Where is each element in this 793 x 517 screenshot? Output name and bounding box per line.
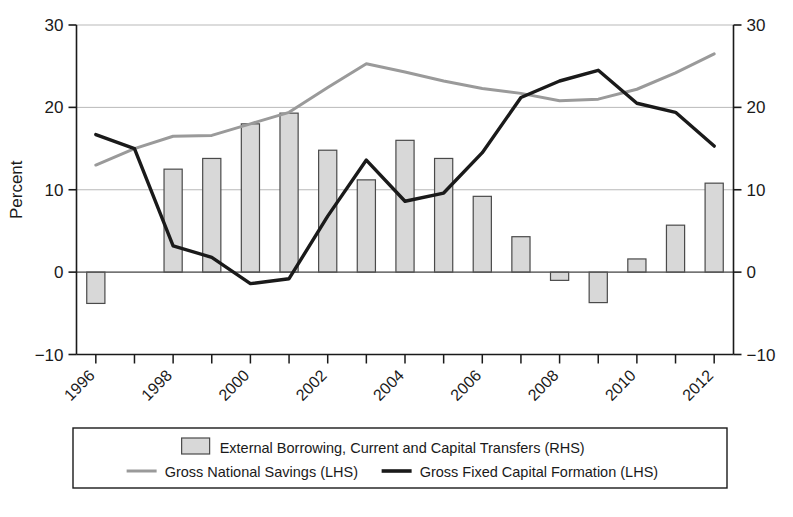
bar-2005[interactable]: [435, 158, 453, 272]
bar-1998[interactable]: [164, 169, 182, 272]
right-tick-label-20: 20: [747, 98, 766, 117]
right-tick-label-10: 10: [747, 181, 766, 200]
legend-marker-bars: [182, 438, 210, 454]
right-axis: −100102030: [734, 16, 776, 365]
xtick-label-2004: 2004: [370, 367, 407, 404]
right-tick-label-30: 30: [747, 16, 766, 35]
xtick-label-2012: 2012: [679, 367, 716, 404]
bar-2010[interactable]: [628, 259, 646, 272]
bottom-axis: 199619982000200220042006200820102012: [61, 355, 734, 404]
chart-figure: −100102030−10010203019961998200020022004…: [0, 0, 793, 517]
legend-label-gns: Gross National Savings (LHS): [165, 464, 358, 480]
left-tick-label-30: 30: [45, 16, 64, 35]
left-tick-label-0: 0: [54, 263, 63, 282]
xtick-label-1998: 1998: [138, 367, 175, 404]
bar-1996[interactable]: [87, 272, 105, 303]
xtick-label-2008: 2008: [525, 367, 562, 404]
bar-2002[interactable]: [319, 150, 337, 272]
bar-2006[interactable]: [473, 196, 491, 272]
right-tick-label--10: −10: [747, 346, 776, 365]
left-tick-label-20: 20: [45, 98, 64, 117]
bar-2009[interactable]: [589, 272, 607, 302]
left-tick-label-10: 10: [45, 181, 64, 200]
xtick-label-2006: 2006: [447, 367, 484, 404]
bar-2011[interactable]: [666, 225, 684, 272]
left-axis: −100102030: [35, 16, 77, 365]
bar-2000[interactable]: [241, 124, 259, 272]
bar-2007[interactable]: [512, 237, 530, 272]
xtick-label-2002: 2002: [293, 367, 330, 404]
y-axis-label: Percent: [7, 160, 26, 219]
xtick-label-2000: 2000: [215, 367, 252, 404]
bar-2012[interactable]: [705, 183, 723, 272]
left-tick-label--10: −10: [35, 346, 64, 365]
xtick-label-2010: 2010: [602, 367, 639, 404]
chart-legend: External Borrowing, Current and Capital …: [73, 428, 727, 488]
legend-label-bars: External Borrowing, Current and Capital …: [220, 440, 585, 456]
bar-2001[interactable]: [280, 113, 298, 272]
bar-series: [87, 113, 724, 303]
bar-2008[interactable]: [551, 272, 569, 280]
chart-canvas: −100102030−10010203019961998200020022004…: [0, 0, 793, 517]
legend-label-gfcf: Gross Fixed Capital Formation (LHS): [420, 464, 659, 480]
bar-2003[interactable]: [357, 180, 375, 272]
bar-2004[interactable]: [396, 140, 414, 272]
right-tick-label-0: 0: [747, 263, 756, 282]
xtick-label-1996: 1996: [61, 367, 98, 404]
